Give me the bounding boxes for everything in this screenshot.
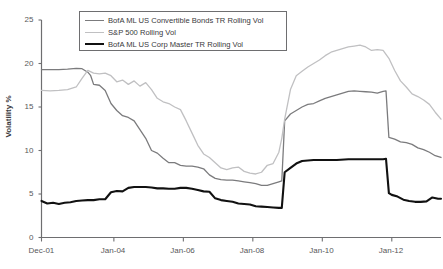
y-tick-label: 0 bbox=[18, 233, 34, 242]
legend-item-convertible-bonds: BofA ML US Convertible Bonds TR Rolling … bbox=[85, 14, 263, 26]
data-series-layer bbox=[42, 45, 442, 208]
x-tick-label: Jan-12 bbox=[379, 246, 403, 255]
x-axis-ticks bbox=[42, 238, 392, 242]
y-tick-label: 5 bbox=[18, 189, 34, 198]
legend-swatch-sp500 bbox=[85, 32, 104, 33]
x-tick-label: Jan-08 bbox=[240, 246, 264, 255]
legend-swatch-corp-master bbox=[85, 43, 104, 45]
y-tick-label: 10 bbox=[18, 146, 34, 155]
legend-item-sp500: S&P 500 Rolling Vol bbox=[85, 26, 176, 38]
series-line-2 bbox=[42, 159, 442, 208]
x-tick-label: Dec-01 bbox=[29, 246, 55, 255]
y-tick-label: 15 bbox=[18, 102, 34, 111]
y-axis-title: Volatility % bbox=[4, 87, 13, 147]
y-tick-label: 25 bbox=[18, 15, 34, 24]
x-tick-label: Jan-04 bbox=[101, 246, 125, 255]
series-line-0 bbox=[42, 68, 442, 185]
legend-swatch-convertible-bonds bbox=[85, 20, 104, 21]
legend-label-corp-master: BofA ML US Corp Master TR Rolling Vol bbox=[108, 40, 243, 49]
volatility-line-chart: Volatility % 0510152025 Dec-01Jan-04Jan-… bbox=[0, 0, 443, 269]
legend-item-corp-master: BofA ML US Corp Master TR Rolling Vol bbox=[85, 38, 243, 50]
legend-label-convertible-bonds: BofA ML US Convertible Bonds TR Rolling … bbox=[108, 16, 263, 25]
x-tick-label: Jan-06 bbox=[170, 246, 194, 255]
y-tick-label: 20 bbox=[18, 59, 34, 68]
x-tick-label: Jan-10 bbox=[309, 246, 333, 255]
series-line-1 bbox=[42, 45, 442, 174]
chart-legend: BofA ML US Convertible Bonds TR Rolling … bbox=[79, 11, 287, 51]
legend-label-sp500: S&P 500 Rolling Vol bbox=[108, 28, 176, 37]
